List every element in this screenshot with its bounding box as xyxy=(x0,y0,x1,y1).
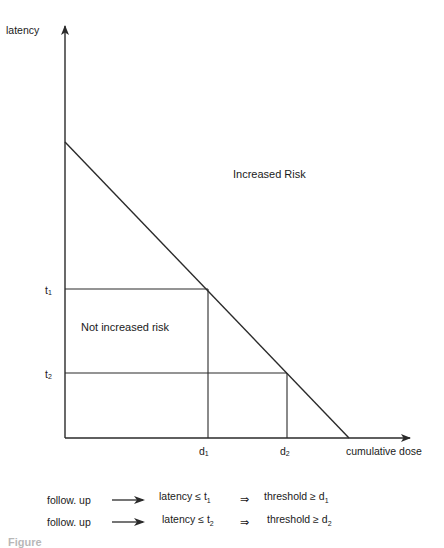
rule-1-threshold: threshold ≥ d1 xyxy=(264,491,329,504)
tick-d2: d2 xyxy=(280,446,290,457)
threshold-line xyxy=(65,142,349,438)
latency-dose-diagram xyxy=(0,0,444,548)
rule-1-implies: ⇒ xyxy=(240,494,249,505)
rule-2-condition: follow. up xyxy=(47,517,91,528)
rule-1-condition: follow. up xyxy=(47,495,91,506)
rule-2-threshold: threshold ≥ d2 xyxy=(267,514,332,527)
y-axis-label: latency xyxy=(6,25,39,36)
tick-t2: t2 xyxy=(45,369,52,380)
footer-arrow-2 xyxy=(112,518,145,526)
rule-1-latency: latency ≤ t1 xyxy=(159,491,211,504)
footer-arrow-1 xyxy=(112,496,145,504)
tick-t1: t1 xyxy=(45,285,52,296)
region-not-increased-risk: Not increased risk xyxy=(81,322,169,333)
rule-2-latency: latency ≤ t2 xyxy=(162,514,214,527)
tick-d1: d1 xyxy=(199,446,209,457)
x-axis-label: cumulative dose xyxy=(346,446,422,457)
figure-caption: Figure xyxy=(8,536,42,548)
region-increased-risk: Increased Risk xyxy=(233,169,306,180)
rule-2-implies: ⇒ xyxy=(240,517,249,528)
